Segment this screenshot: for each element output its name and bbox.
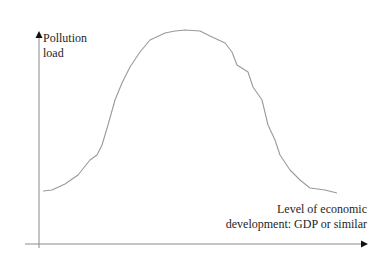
- x-axis-arrow-icon: [361, 241, 368, 248]
- y-axis-arrow-icon: [36, 31, 43, 38]
- y-axis-label: Pollution load: [43, 31, 87, 61]
- x-axis-label-line-2: development: GDP or similar: [226, 217, 367, 232]
- pollution-curve: [43, 30, 337, 193]
- x-axis-label-line-1: Level of economic: [226, 202, 367, 217]
- x-axis-label: Level of economic development: GDP or si…: [226, 202, 367, 232]
- y-axis-label-line-2: load: [43, 46, 87, 61]
- y-axis-label-line-1: Pollution: [43, 31, 87, 46]
